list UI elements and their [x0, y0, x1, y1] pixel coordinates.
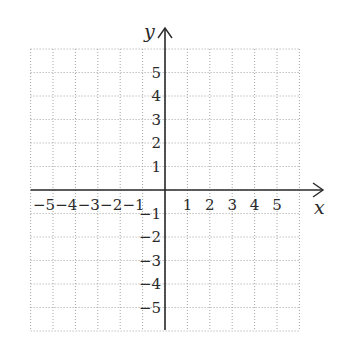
x-tick-label: 4 [250, 196, 260, 214]
y-tick-label: −3 [139, 252, 161, 270]
y-axis-label: y [143, 20, 155, 42]
x-tick-label: −5 [33, 196, 55, 214]
y-tick-label: 5 [151, 64, 161, 82]
x-tick-label: −2 [100, 196, 122, 214]
x-tick-label: −3 [78, 196, 100, 214]
y-tick-label: −4 [139, 275, 161, 293]
x-axis-label: x [314, 196, 325, 218]
coordinate-plane: −5−4−3−2−112345 54321−1−2−3−4−5 x y [0, 0, 345, 346]
x-tick-label: 2 [205, 196, 215, 214]
y-tick-label: 3 [151, 111, 161, 129]
x-tick-label: −4 [55, 196, 77, 214]
y-tick-label: 2 [151, 134, 161, 152]
axes [31, 28, 323, 330]
y-tick-label: −5 [139, 299, 161, 317]
y-tick-label: 1 [151, 158, 161, 176]
x-tick-label: 3 [227, 196, 237, 214]
x-tick-label: 5 [272, 196, 282, 214]
y-tick-label: −1 [139, 205, 161, 223]
y-tick-label: −2 [139, 228, 161, 246]
x-tick-label: 1 [183, 196, 193, 214]
y-tick-label: 4 [151, 87, 161, 105]
